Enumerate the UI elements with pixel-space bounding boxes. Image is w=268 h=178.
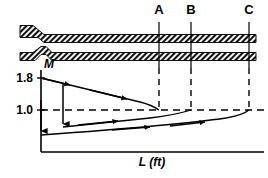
x-axis-label: L (ft) [139,155,165,169]
curve-supersonic-arrow-2 [90,90,127,99]
station-lines-duct [159,22,249,68]
station-label-A: A [154,2,164,17]
curve-supersonic-arrow-1 [41,78,70,85]
plot-axes [37,70,264,152]
station-label-B: B [186,2,195,17]
y-axis-label: M [44,57,55,71]
curve-subsonic-arrow-B1 [78,121,118,125]
fanno-flow-figure: A B C M 1.8 1.0 L (ft) [0,0,268,178]
reference-lines [41,68,264,110]
station-label-C: C [244,2,254,17]
duct-assembly [20,26,256,61]
y-tick-label-1-8: 1.8 [16,71,33,85]
curve-subsonic-branch-to-C [41,110,249,135]
duct-upper-wall [20,26,256,43]
flow-curves [41,78,249,135]
figure-root: A B C M 1.8 1.0 L (ft) [0,0,268,178]
y-tick-label-1-0: 1.0 [16,103,33,117]
duct-lower-wall [20,47,256,61]
